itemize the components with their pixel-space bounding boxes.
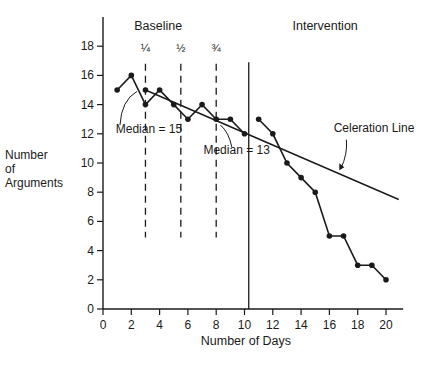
y-tick-label: 14 (81, 98, 95, 112)
x-tick-label: 16 (323, 318, 337, 332)
median-13-label: Median = 13 (203, 143, 270, 157)
data-point (143, 102, 149, 108)
x-tick-label: 8 (213, 318, 220, 332)
x-axis-title: Number of Days (201, 334, 291, 348)
y-tick-label: 16 (81, 68, 95, 82)
y-tick-label: 0 (87, 302, 94, 316)
data-point (185, 116, 191, 122)
arrowhead-icon (339, 163, 344, 170)
guides (143, 62, 399, 309)
y-tick-label: 18 (81, 39, 95, 53)
data-point (284, 160, 290, 166)
y-tick-label: 6 (87, 214, 94, 228)
phase-label-intervention: Intervention (292, 19, 357, 33)
quarter-label: ¼ (141, 42, 151, 54)
x-tick-label: 10 (238, 318, 252, 332)
x-tick-label: 14 (294, 318, 308, 332)
x-tick-label: 2 (128, 318, 135, 332)
y-tick-label: 2 (87, 273, 94, 287)
data-point (228, 116, 234, 122)
y-tick-label: 12 (81, 127, 95, 141)
annotations: BaselineIntervention¼½¾Median = 15Median… (116, 19, 415, 170)
phase-label-baseline: Baseline (134, 19, 182, 33)
data-point (341, 233, 347, 239)
x-tick-label: 12 (266, 318, 280, 332)
x-tick-label: 4 (156, 318, 163, 332)
data-point (327, 233, 333, 239)
data-point (242, 131, 248, 137)
line-chart: 02468101214161802468101214161820Number o… (0, 0, 422, 367)
x-tick-label: 6 (185, 318, 192, 332)
median-15-pointer (120, 91, 137, 125)
x-tick-label: 0 (100, 318, 107, 332)
data-point (157, 87, 163, 93)
data-point (355, 262, 361, 268)
celeration-line (145, 90, 398, 200)
quarter-label: ½ (176, 42, 185, 54)
data-point (369, 262, 375, 268)
data-point (270, 131, 276, 137)
axes: 02468101214161802468101214161820Number o… (81, 17, 404, 348)
data-point (312, 189, 318, 195)
y-tick-label: 4 (87, 244, 94, 258)
data-point (129, 73, 135, 79)
median-15-label: Median = 15 (116, 122, 183, 136)
median-point-marker (143, 87, 149, 93)
data-point (298, 175, 304, 181)
data-point (383, 277, 389, 283)
x-tick-label: 20 (379, 318, 393, 332)
data-point (114, 87, 120, 93)
series-line-intervention (259, 119, 386, 280)
x-tick-label: 18 (351, 318, 365, 332)
y-tick-label: 8 (87, 185, 94, 199)
data-point (213, 116, 219, 122)
celeration-line-label: Celeration Line (334, 121, 415, 135)
data-point (199, 102, 205, 108)
y-tick-label: 10 (81, 156, 95, 170)
data-point (171, 102, 177, 108)
celeration-pointer (341, 140, 347, 169)
quarter-label: ¾ (212, 42, 222, 54)
data-point (256, 116, 262, 122)
